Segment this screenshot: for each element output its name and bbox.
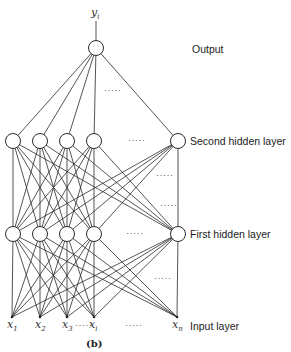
second-hidden-neuron-4 xyxy=(87,134,102,149)
second-hidden-neuron-3 xyxy=(60,134,75,149)
edge xyxy=(13,48,96,141)
ellipsis-first-hidden-nodes: ····· xyxy=(126,228,144,238)
output-symbol: yi xyxy=(90,6,99,21)
first-hidden-neuron-2 xyxy=(33,227,48,242)
second-hidden-neuron-2 xyxy=(33,134,48,149)
ellipsis-input-nodes: ····· xyxy=(125,320,143,330)
edge xyxy=(12,234,13,317)
first-hidden-neuron-4 xyxy=(87,227,102,242)
edge xyxy=(40,48,96,141)
edge xyxy=(177,234,178,317)
edge xyxy=(94,48,96,141)
output-neuron xyxy=(89,41,104,56)
ellipsis-hidden-edges-lower: ····· xyxy=(160,200,178,210)
label-second-hidden-layer: Second hidden layer xyxy=(190,135,286,147)
input-labels: x1x2x3xixn····· xyxy=(7,318,183,333)
edge xyxy=(67,48,96,141)
first-hidden-neuron-1 xyxy=(6,227,21,242)
input-label-2: x2 xyxy=(35,318,46,333)
ellipsis-hidden-edges-upper: ····· xyxy=(156,170,174,180)
input-label-1: x1 xyxy=(7,318,18,333)
input-label-5: xn xyxy=(172,318,183,333)
first-hidden-neuron-5 xyxy=(171,227,186,242)
ellipsis-second-hidden-nodes: ····· xyxy=(128,135,146,145)
ellipsis-x3-xi: ····· xyxy=(75,320,93,330)
second-hidden-neuron-1 xyxy=(6,134,21,149)
second-hidden-neuron-5 xyxy=(171,134,186,149)
label-first-hidden-layer: First hidden layer xyxy=(190,228,271,240)
ellipsis-input-edges: ····· xyxy=(154,273,172,283)
label-output: Output xyxy=(192,43,224,55)
figure-caption: (b) xyxy=(86,338,102,349)
ellipsis-output-edges: ····· xyxy=(104,85,122,95)
first-hidden-neuron-3 xyxy=(60,227,75,242)
neural-network-diagram: yi Output Second hidden layer First hidd… xyxy=(0,0,291,352)
label-input-layer: Input layer xyxy=(190,320,240,332)
input-label-3: x3 xyxy=(62,318,73,333)
